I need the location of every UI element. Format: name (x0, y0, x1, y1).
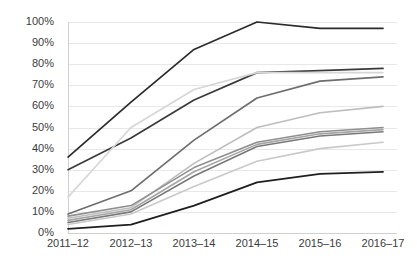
x-tick-label-0: 2011–12 (38, 238, 98, 249)
y-tick-80: 80% (8, 58, 54, 69)
y-tick-40: 40% (8, 143, 54, 154)
chart-plot-area (0, 0, 417, 265)
y-tick-label: 100% (8, 16, 54, 27)
y-tick-30: 30% (8, 164, 54, 175)
series-line-series-6 (68, 128, 383, 217)
series-group (68, 22, 383, 229)
x-tick-label-3: 2014–15 (227, 238, 287, 249)
x-tick-label-4: 2015–16 (290, 238, 350, 249)
y-tick-label: 80% (8, 58, 54, 69)
y-tick-20: 20% (8, 185, 54, 196)
series-line-series-7 (68, 130, 383, 221)
y-tick-label: 60% (8, 100, 54, 111)
y-tick-10: 10% (8, 206, 54, 217)
y-tick-label: 10% (8, 206, 54, 217)
y-tick-label: 50% (8, 122, 54, 133)
y-tick-label: 20% (8, 185, 54, 196)
x-tick-label-2: 2013–14 (164, 238, 224, 249)
y-tick-label: 40% (8, 143, 54, 154)
series-line-series-1 (68, 22, 383, 157)
y-tick-label: 70% (8, 79, 54, 90)
series-line-series-10 (68, 172, 383, 229)
y-tick-60: 60% (8, 100, 54, 111)
y-tick-70: 70% (8, 79, 54, 90)
y-tick-100: 100% (8, 16, 54, 27)
y-tick-label: 30% (8, 164, 54, 175)
y-tick-50: 50% (8, 122, 54, 133)
x-tick-label-1: 2012–13 (101, 238, 161, 249)
line-chart: 0%10%20%30%40%50%60%70%80%90%100% 2011–1… (0, 0, 417, 265)
gridlines-group (68, 22, 397, 234)
series-line-series-5 (68, 106, 383, 218)
x-tick-label-5: 2016–17 (353, 238, 413, 249)
y-tick-label: 90% (8, 37, 54, 48)
y-tick-90: 90% (8, 37, 54, 48)
